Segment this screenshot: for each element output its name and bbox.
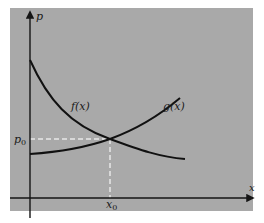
x-axis-label: x <box>249 182 255 193</box>
y-axis-label: p <box>36 10 43 23</box>
equilibrium-diagram: p x f(x) g(x) p0 x0 <box>0 0 264 223</box>
curve-f-label: f(x) <box>70 100 90 113</box>
curve-g-label: g(x) <box>163 100 185 113</box>
x0-label-subscript: 0 <box>112 203 117 212</box>
p0-label-main: p <box>14 133 21 146</box>
p0-label-subscript: 0 <box>21 138 26 147</box>
plot-panel <box>10 8 253 211</box>
